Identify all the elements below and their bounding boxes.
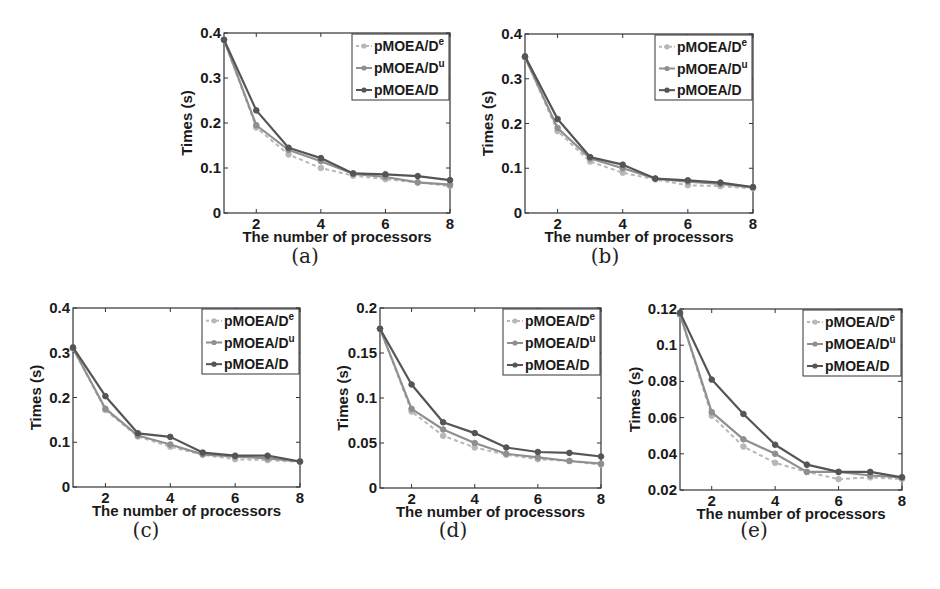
data-point	[836, 469, 842, 475]
legend: pMOEA/DepMOEA/DupMOEA/D	[803, 310, 901, 376]
y-tick-label: 0.04	[648, 445, 678, 462]
data-point	[836, 476, 842, 482]
data-point	[772, 442, 778, 448]
data-point	[804, 462, 810, 468]
y-tick-label: 0.12	[648, 300, 677, 317]
legend-entry-u: pMOEA/Du	[825, 334, 896, 352]
chart-e: 0.020.040.060.080.10.122468The number of…	[0, 0, 940, 589]
caption-e: (e)	[724, 518, 784, 542]
data-point	[899, 475, 905, 481]
data-point	[677, 310, 683, 316]
data-point	[741, 437, 747, 443]
y-axis-label: Times (s)	[626, 367, 643, 433]
data-point	[804, 469, 810, 475]
data-point	[867, 469, 873, 475]
y-tick-label: 0.1	[656, 336, 677, 353]
y-tick-label: 0.06	[648, 409, 677, 426]
data-point	[709, 409, 715, 415]
legend-entry-plain: pMOEA/D	[825, 358, 890, 374]
x-tick-label: 8	[898, 492, 906, 509]
data-point	[741, 411, 747, 417]
legend-entry-e: pMOEA/De	[825, 312, 896, 330]
data-point	[741, 444, 747, 450]
y-tick-label: 0.02	[648, 481, 677, 498]
data-point	[709, 377, 715, 383]
y-tick-label: 0.08	[648, 372, 677, 389]
data-point	[772, 460, 778, 466]
data-point	[772, 451, 778, 457]
